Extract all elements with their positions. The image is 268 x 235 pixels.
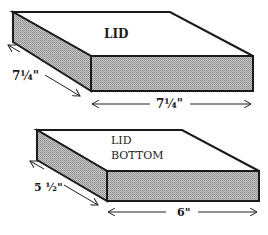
lid-bottom-front-face (107, 171, 259, 201)
lid-width-dimension: 7¼" (156, 97, 183, 111)
lid-front-face (91, 56, 253, 91)
lid-depth-dimension: 7¼" (12, 69, 39, 83)
lid-box: LID 7¼" 7¼" (8, 12, 253, 111)
lid-bottom-width-dimension: 6" (177, 206, 190, 219)
lid-bottom-label-line2: BOTTOM (111, 149, 163, 162)
lid-label: LID (104, 27, 128, 41)
lid-bottom-box: LID BOTTOM 5 ½" 6" (30, 130, 259, 219)
box-diagram: LID 7¼" 7¼" LID BOTTOM 5 ½" 6" (0, 0, 268, 235)
lid-bottom-depth-dimension: 5 ½" (34, 181, 63, 194)
lid-bottom-label-line1: LID (111, 134, 132, 147)
